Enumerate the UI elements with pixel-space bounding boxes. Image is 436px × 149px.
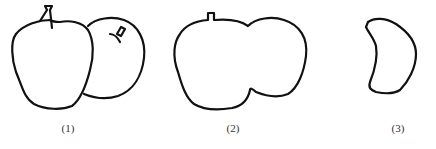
front-apple-stem xyxy=(40,6,52,28)
figure-2-label: (2) xyxy=(213,122,253,134)
two-apples-drawing xyxy=(0,0,160,115)
front-apple-outline xyxy=(12,20,93,109)
figure-1-label: (1) xyxy=(48,122,88,134)
figure-2: (2) xyxy=(160,0,320,115)
back-apple-stem xyxy=(110,27,125,42)
figure-3-label: (3) xyxy=(378,122,418,134)
figure-3: (3) xyxy=(320,0,436,115)
crescent-drawing xyxy=(320,0,436,115)
combined-outline-drawing xyxy=(160,0,320,115)
combined-outline xyxy=(174,13,306,109)
figure-1: (1) xyxy=(0,0,160,115)
crescent-outline xyxy=(366,19,416,94)
